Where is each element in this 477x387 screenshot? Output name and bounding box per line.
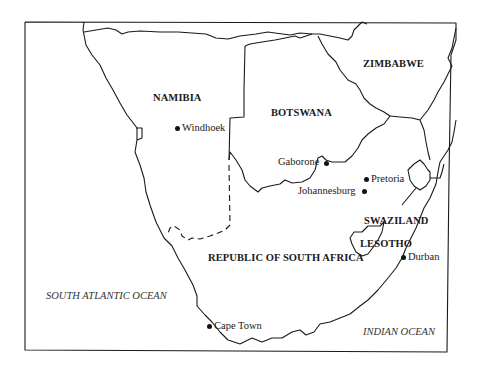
coastline-east [440, 120, 456, 162]
city-dot-windhoek [175, 126, 180, 131]
border-zimbabwe-southafrica [390, 116, 420, 120]
label-johannesburg: Johannesburg [298, 186, 356, 197]
border-botswana-zimbabwe [318, 36, 390, 116]
label-indian-ocean: INDIAN OCEAN [363, 327, 435, 338]
border-namibia-angola [84, 28, 275, 39]
border-swaziland [408, 160, 430, 190]
label-botswana: BOTSWANA [271, 108, 332, 119]
label-swaziland: SWAZILAND [364, 216, 429, 227]
label-zimbabwe: ZIMBABWE [363, 59, 424, 70]
label-namibia: NAMIBIA [153, 93, 202, 104]
label-pretoria: Pretoria [371, 174, 404, 185]
border-southafrica-mozambique [420, 120, 430, 160]
label-gaborone: Gaborone [278, 157, 319, 168]
map-border [25, 22, 456, 352]
map: NAMIBIA BOTSWANA ZIMBABWE SWAZILAND LESO… [0, 0, 477, 387]
label-lesotho: LESOTHO [360, 239, 412, 250]
border-namibia-southafrica [167, 165, 230, 240]
label-windhoek: Windhoek [182, 123, 225, 134]
city-dot-durban [401, 255, 406, 260]
label-south-africa: REPUBLIC OF SOUTH AFRICA [208, 253, 364, 264]
swaziland-leader [402, 188, 416, 205]
border-namibia-botswana [229, 46, 245, 160]
city-dot-gaborone [324, 161, 329, 166]
label-cape-town: Cape Town [214, 321, 262, 332]
label-durban: Durban [408, 252, 440, 263]
label-south-atlantic-ocean: SOUTH ATLANTIC OCEAN [46, 291, 167, 302]
city-dot-cape-town [207, 324, 212, 329]
city-dot-johannesburg [362, 189, 367, 194]
city-dot-pretoria [364, 177, 369, 182]
map-frame-border [25, 22, 456, 352]
